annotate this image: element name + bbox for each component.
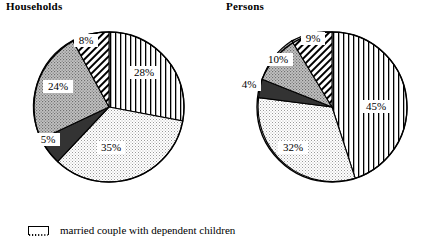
legend-swatch-vertical-stripes-icon bbox=[28, 226, 49, 235]
pie-label-households-4: 24% bbox=[43, 80, 73, 93]
legend-item-married-couple-dependent-children: married couple with dependent children bbox=[28, 224, 235, 236]
chart-panel-households: Households bbox=[0, 0, 218, 212]
pie-label-persons-3: 4% bbox=[237, 78, 261, 91]
chart-legend: married couple with dependent children bbox=[0, 220, 436, 236]
pie-label-persons-4: 10% bbox=[263, 53, 293, 66]
pie-label-text: 32% bbox=[283, 141, 303, 153]
pie-label-households-1: 28% bbox=[130, 66, 158, 79]
pie-chart-households: 28% 35% 5% 24% 8% bbox=[0, 8, 218, 204]
pie-label-text: 35% bbox=[101, 141, 121, 153]
pie-label-text: 24% bbox=[48, 80, 68, 92]
pie-label-text: 45% bbox=[366, 100, 386, 112]
pie-label-persons-2: 32% bbox=[278, 141, 308, 154]
pie-label-persons-1: 45% bbox=[361, 100, 391, 113]
chart-panel-persons: Persons bbox=[218, 0, 436, 212]
legend-item-label: married couple with dependent children bbox=[60, 224, 235, 236]
pie-label-households-5: 8% bbox=[74, 34, 98, 47]
pie-label-households-3: 5% bbox=[36, 133, 60, 146]
pie-label-households-2: 35% bbox=[97, 141, 125, 154]
pie-label-text: 10% bbox=[268, 53, 288, 65]
pie-label-text: 5% bbox=[41, 133, 56, 145]
pie-label-text: 4% bbox=[242, 78, 257, 90]
pie-chart-persons: 45% 32% 4% 10% 9% bbox=[218, 8, 436, 204]
pie-label-text: 28% bbox=[134, 66, 154, 78]
pie-label-text: 9% bbox=[306, 32, 321, 44]
pie-label-persons-5: 9% bbox=[301, 32, 325, 45]
pie-label-text: 8% bbox=[79, 34, 94, 46]
